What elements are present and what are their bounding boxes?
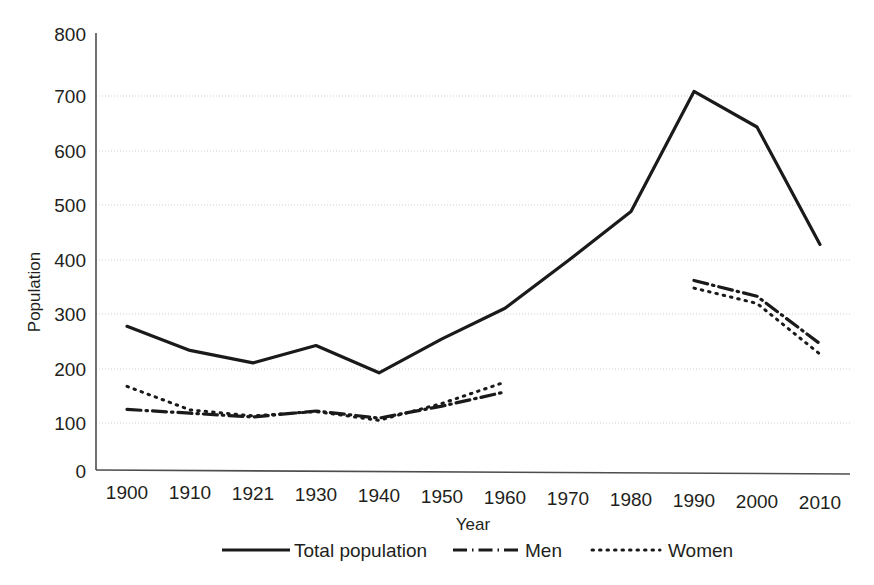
x-tick-1990: 1990: [673, 490, 715, 511]
series-group: [127, 91, 820, 420]
x-tick-labels: 1900 1910 1921 1930 1940 1950 1960 1970 …: [106, 482, 841, 513]
x-tick-2010: 2010: [799, 492, 841, 513]
y-tick-700: 700: [54, 86, 86, 107]
y-tick-labels: 800 700 600 500 400 300 200 100 0: [54, 24, 86, 482]
y-tick-600: 600: [54, 141, 86, 162]
legend: Total population Men Women: [222, 540, 733, 561]
y-tick-0: 0: [75, 461, 86, 482]
y-tick-300: 300: [54, 304, 86, 325]
axis-lines: [96, 33, 850, 474]
y-tick-200: 200: [54, 359, 86, 380]
x-tick-1940: 1940: [358, 485, 400, 506]
chart-svg: 800 700 600 500 400 300 200 100 0 Popula…: [0, 0, 874, 585]
population-line-chart: 800 700 600 500 400 300 200 100 0 Popula…: [0, 0, 874, 585]
x-axis-line: [96, 470, 850, 474]
x-tick-1960: 1960: [484, 487, 526, 508]
series-men-line-segment-1: [127, 392, 505, 418]
x-tick-1950: 1950: [421, 486, 463, 507]
legend-label-total-population: Total population: [294, 540, 427, 561]
x-tick-1980: 1980: [610, 489, 652, 510]
x-tick-1970: 1970: [547, 488, 589, 509]
x-tick-1921: 1921: [232, 483, 274, 504]
y-tick-100: 100: [54, 413, 86, 434]
series-men-line-segment-2: [694, 281, 820, 344]
x-tick-1910: 1910: [169, 482, 211, 503]
x-tick-2000: 2000: [736, 491, 778, 512]
y-tick-800: 800: [54, 24, 86, 45]
y-tick-400: 400: [54, 250, 86, 271]
x-axis-title: Year: [456, 515, 491, 534]
series-total-population-line: [127, 91, 820, 372]
y-tick-500: 500: [54, 195, 86, 216]
legend-label-men: Men: [525, 540, 562, 561]
series-women-line-segment-2: [694, 288, 820, 354]
legend-label-women: Women: [668, 540, 733, 561]
series-women-line-segment-1: [127, 382, 505, 420]
y-axis-title: Population: [25, 252, 44, 332]
x-tick-1900: 1900: [106, 482, 148, 503]
gridlines: [96, 96, 850, 423]
x-tick-1930: 1930: [295, 484, 337, 505]
